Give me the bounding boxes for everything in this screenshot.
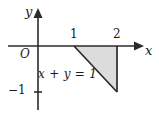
equation-label: x + y = 1 xyxy=(38,68,97,80)
origin-label: O xyxy=(20,48,30,60)
x-axis-label: x xyxy=(145,44,152,57)
x-axis-arrowhead xyxy=(134,42,144,51)
y-tick-label-negative-1: −1 xyxy=(8,84,26,96)
figure-container: y x O 1 2 −1 x + y = 1 xyxy=(0,0,159,122)
x-tick-label-2: 2 xyxy=(113,28,121,40)
coordinate-plot xyxy=(0,0,159,122)
y-axis-arrowhead xyxy=(34,8,43,18)
y-axis-label: y xyxy=(25,5,32,18)
x-tick-label-1: 1 xyxy=(70,28,78,40)
